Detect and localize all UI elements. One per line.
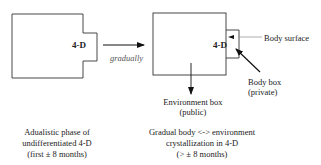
environment-box-label-line1: Environment box xyxy=(163,97,222,107)
body-surface-label: Body surface xyxy=(264,33,309,43)
left-caption-line2: undifferentiated 4-D xyxy=(22,138,91,148)
right-caption-line3: (> ± 8 months) xyxy=(177,149,228,159)
body-surface-arrowhead xyxy=(228,35,234,39)
gradually-label: gradually xyxy=(110,53,143,63)
body-box xyxy=(226,30,239,58)
body-box-label-line1: Body box xyxy=(248,77,281,87)
environment-box-label-line2: (public) xyxy=(180,107,207,117)
left-caption-line3: (first ± 8 months) xyxy=(27,149,87,159)
left-4d-label: 4-D xyxy=(72,40,86,50)
right-caption-line2: crystallization in 4-D xyxy=(166,138,238,148)
right-4d-label: 4-D xyxy=(213,40,227,50)
left-caption-line1: Adualistic phase of xyxy=(24,127,90,137)
right-caption-line1: Gradual body <-> environment xyxy=(149,127,255,137)
body-box-label-line2: (private) xyxy=(248,87,277,97)
body-box-arrow xyxy=(236,49,260,72)
